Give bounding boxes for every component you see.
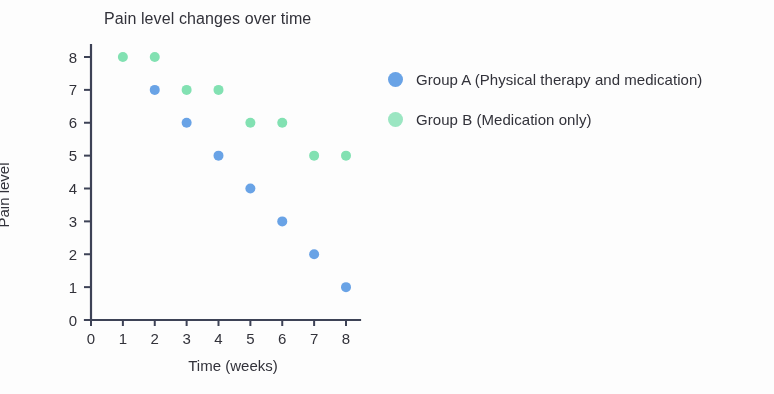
svg-text:4: 4	[69, 180, 77, 197]
svg-text:7: 7	[310, 330, 318, 347]
plot-area: 012345678012345678	[0, 0, 400, 394]
x-axis-title: Time (weeks)	[104, 357, 362, 374]
svg-text:5: 5	[69, 147, 77, 164]
svg-text:5: 5	[246, 330, 254, 347]
data-point	[245, 184, 255, 194]
data-point	[309, 151, 319, 161]
plot-svg: 012345678012345678	[0, 0, 400, 394]
svg-text:3: 3	[69, 213, 77, 230]
svg-text:2: 2	[69, 246, 77, 263]
data-point	[118, 52, 128, 62]
data-point	[182, 85, 192, 95]
legend-item-group-b: Group B (Medication only)	[388, 111, 702, 128]
legend-label-group-a: Group A (Physical therapy and medication…	[416, 71, 702, 88]
data-point	[341, 151, 351, 161]
legend-label-group-b: Group B (Medication only)	[416, 111, 592, 128]
data-point	[277, 118, 287, 128]
svg-text:8: 8	[69, 49, 77, 66]
data-point	[341, 282, 351, 292]
svg-text:7: 7	[69, 81, 77, 98]
svg-text:6: 6	[278, 330, 286, 347]
svg-text:1: 1	[119, 330, 127, 347]
data-point	[150, 52, 160, 62]
legend-item-group-a: Group A (Physical therapy and medication…	[388, 71, 702, 88]
legend-swatch-group-a	[388, 72, 403, 87]
data-point	[150, 85, 160, 95]
y-axis-title: Pain level	[0, 140, 12, 250]
svg-text:4: 4	[214, 330, 222, 347]
data-point	[277, 216, 287, 226]
svg-text:0: 0	[69, 312, 77, 329]
svg-text:3: 3	[182, 330, 190, 347]
svg-text:0: 0	[87, 330, 95, 347]
svg-text:6: 6	[69, 114, 77, 131]
svg-text:1: 1	[69, 279, 77, 296]
data-point	[182, 118, 192, 128]
data-point	[214, 85, 224, 95]
data-point	[245, 118, 255, 128]
svg-text:2: 2	[151, 330, 159, 347]
data-point	[214, 151, 224, 161]
svg-text:8: 8	[342, 330, 350, 347]
legend-swatch-group-b	[388, 112, 403, 127]
scatter-plot-figure: Pain level changes over time 01234567801…	[0, 0, 774, 394]
data-point	[309, 249, 319, 259]
chart-legend: Group A (Physical therapy and medication…	[388, 71, 702, 128]
